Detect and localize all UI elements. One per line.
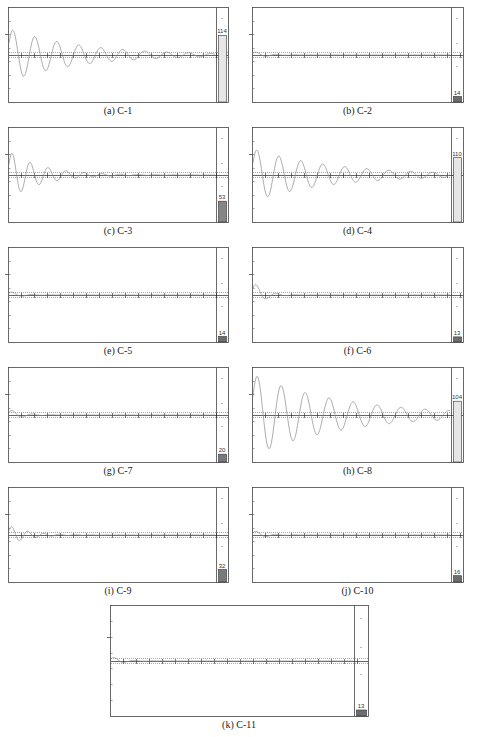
bar-value-label: 13: [454, 330, 461, 336]
value-bar: [454, 337, 462, 342]
panel-caption: (d) C-4: [252, 225, 463, 236]
plot-frame: [253, 368, 464, 463]
panel-caption: (c) C-3: [8, 225, 228, 236]
panel-caption: (j) C-10: [252, 585, 463, 596]
bar-value-label: 110: [452, 151, 462, 157]
chart-svg: 16: [252, 487, 464, 583]
bar-value-label: 32: [219, 563, 226, 569]
value-bar: [219, 570, 227, 583]
chart-panel-f: 13(f) C-6: [252, 247, 463, 360]
panel-caption: (k) C-11: [110, 719, 368, 730]
bar-value-label: 114: [217, 28, 227, 34]
value-bar: [219, 454, 227, 462]
panel-caption: (i) C-9: [8, 585, 228, 596]
value-bar: [357, 710, 367, 716]
chart-svg: 110: [252, 127, 464, 223]
chart-svg: 13: [110, 605, 369, 717]
value-bar: [454, 576, 462, 582]
value-bar: [219, 201, 227, 222]
chart-panel-j: 16(j) C-10: [252, 487, 463, 600]
response-curve: [9, 527, 215, 541]
bar-value-label: 13: [358, 703, 365, 709]
bar-value-label: 14: [219, 330, 226, 336]
response-curve: [9, 411, 215, 418]
chart-svg: 114: [8, 7, 229, 103]
bar-value-label: 20: [219, 447, 226, 453]
bar-value-label: 16: [454, 569, 461, 575]
value-bar: [219, 337, 227, 343]
chart-panel-d: 110(d) C-4: [252, 127, 463, 240]
panel-caption: (g) C-7: [8, 465, 228, 476]
chart-svg: 13: [252, 247, 464, 343]
panel-caption: (a) C-1: [8, 105, 228, 116]
chart-svg: 53: [8, 127, 229, 223]
value-bar: [219, 35, 227, 102]
chart-svg: 20: [8, 367, 229, 463]
chart-panel-h: 104(h) C-8: [252, 367, 463, 480]
chart-panel-g: 20(g) C-7: [8, 367, 228, 480]
value-bar: [454, 401, 462, 462]
chart-panel-k: 13(k) C-11: [110, 605, 368, 734]
response-curve: [253, 150, 450, 197]
panel-caption: (h) C-8: [252, 465, 463, 476]
response-curve: [9, 30, 215, 76]
chart-svg: 14: [8, 247, 229, 343]
bar-value-label: 14: [454, 90, 461, 96]
panel-caption: (e) C-5: [8, 345, 228, 356]
response-curve: [253, 284, 450, 299]
chart-panel-i: 32(i) C-9: [8, 487, 228, 600]
panel-caption: (f) C-6: [252, 345, 463, 356]
value-bar: [454, 97, 462, 103]
chart-panel-c: 53(c) C-3: [8, 127, 228, 240]
bar-value-label: 104: [452, 394, 463, 400]
value-bar: [454, 158, 462, 222]
chart-svg: 104: [252, 367, 464, 463]
plot-frame: [9, 8, 229, 103]
chart-svg: 32: [8, 487, 229, 583]
chart-panel-e: 14(e) C-5: [8, 247, 228, 360]
bar-value-label: 53: [219, 194, 226, 200]
chart-svg: 14: [252, 7, 464, 103]
chart-panel-b: 14(b) C-2: [252, 7, 463, 120]
panel-caption: (b) C-2: [252, 105, 463, 116]
chart-panel-a: 114(a) C-1: [8, 7, 228, 120]
